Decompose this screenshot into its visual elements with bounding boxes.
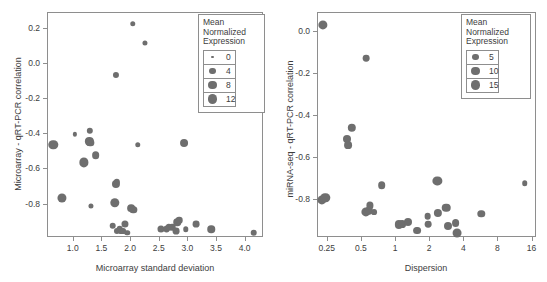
- legend-title-line-3: Expression: [466, 37, 526, 47]
- x-tick-label: 16: [527, 243, 536, 253]
- data-point: [250, 229, 257, 236]
- data-point: [180, 139, 188, 147]
- legend-entry: 8: [204, 79, 235, 93]
- data-point: [424, 213, 431, 220]
- legend-dot: [472, 54, 478, 60]
- x-tick-label: 8: [495, 243, 500, 253]
- data-point: [113, 71, 119, 77]
- x-tick-label: 1.5: [96, 243, 108, 253]
- y-tick: [43, 204, 47, 205]
- y-tick: [313, 157, 317, 158]
- legend-key-right: 51015: [466, 50, 499, 93]
- x-tick-label: 0.25: [318, 243, 335, 253]
- legend-dot: [211, 56, 213, 58]
- x-tick: [532, 237, 533, 241]
- legend-swatch: [204, 93, 221, 106]
- legend-swatch: [204, 79, 221, 92]
- x-tick-label: 3.5: [210, 243, 222, 253]
- data-point: [172, 228, 179, 235]
- legend-swatch: [204, 51, 221, 64]
- y-tick: [313, 199, 317, 200]
- legend-entry: 12: [204, 93, 235, 106]
- x-axis-title-right: Dispersion: [405, 263, 448, 273]
- data-point: [319, 20, 328, 29]
- data-point: [371, 209, 377, 215]
- data-point: [434, 209, 442, 217]
- legend-dot: [471, 67, 479, 75]
- y-axis-title-right: miRNA-seq - qRT-PCR correlation: [285, 61, 295, 198]
- x-tick: [187, 237, 188, 241]
- legend-label: 5: [484, 52, 494, 62]
- x-tick-label: 2.5: [153, 243, 165, 253]
- data-point: [522, 181, 528, 187]
- data-point: [124, 230, 129, 235]
- x-tick-label: 4.0: [239, 243, 251, 253]
- y-tick-label: -0.8: [13, 199, 40, 209]
- legend-key-left: 04812: [203, 50, 236, 107]
- legend-entry: 5: [467, 51, 498, 65]
- y-tick: [43, 168, 47, 169]
- legend-label: 10: [484, 66, 498, 76]
- data-point: [92, 152, 100, 160]
- y-tick: [43, 133, 47, 134]
- x-axis-title-left: Microarray standard deviation: [96, 263, 215, 273]
- data-point: [130, 206, 137, 213]
- data-point: [130, 21, 135, 26]
- legend-swatch: [467, 51, 484, 64]
- x-tick-label: 1: [393, 243, 398, 253]
- x-tick-label: 2: [427, 243, 432, 253]
- y-tick: [313, 115, 317, 116]
- x-tick: [395, 237, 396, 241]
- legend-label: 15: [484, 80, 498, 90]
- scatter-panel-right: 0.250.51248160.0-0.2-0.4-0.6-0.8 Dispers…: [274, 0, 547, 282]
- x-tick: [73, 237, 74, 241]
- legend-dot: [471, 80, 480, 89]
- data-point: [87, 139, 94, 146]
- legend-swatch: [467, 65, 484, 78]
- legend-label: 0: [221, 52, 231, 62]
- data-point: [192, 221, 199, 228]
- data-point: [378, 182, 386, 190]
- x-tick-label: 4: [461, 243, 466, 253]
- y-tick-label: 0.0: [283, 26, 310, 36]
- legend-swatch: [467, 79, 484, 92]
- x-tick-label: 3.0: [181, 243, 193, 253]
- data-point: [88, 204, 93, 209]
- data-point: [363, 55, 370, 62]
- x-tick: [159, 237, 160, 241]
- y-tick-label: 0.2: [13, 23, 40, 33]
- legend-dot: [209, 68, 215, 74]
- data-point: [452, 219, 460, 227]
- x-tick: [245, 237, 246, 241]
- x-tick-label: 1.0: [67, 243, 79, 253]
- legend-entry: 4: [204, 65, 235, 79]
- figure-container: 1.01.52.02.53.03.54.00.20.0-0.2-0.4-0.6-…: [0, 0, 547, 282]
- y-tick: [43, 28, 47, 29]
- legend-dot: [208, 81, 216, 89]
- legend-right: Mean Normalized Expression 51015: [461, 14, 531, 99]
- data-point: [347, 123, 355, 131]
- data-point: [344, 142, 352, 150]
- data-point: [452, 228, 461, 237]
- data-point: [58, 193, 67, 202]
- y-axis-title-left: Microarray - qRT-PCR correlation: [13, 57, 23, 190]
- data-point: [79, 158, 88, 167]
- legend-entry: 0: [204, 51, 235, 65]
- data-point: [321, 193, 330, 202]
- data-point: [87, 128, 93, 134]
- x-tick: [497, 237, 498, 241]
- x-tick: [327, 237, 328, 241]
- data-point: [208, 225, 215, 232]
- data-point: [413, 227, 421, 235]
- y-tick: [313, 31, 317, 32]
- x-tick: [216, 237, 217, 241]
- x-tick: [429, 237, 430, 241]
- data-point: [135, 142, 140, 147]
- x-tick-label: 2.0: [124, 243, 136, 253]
- data-point: [48, 140, 57, 149]
- legend-dot: [208, 94, 217, 103]
- legend-title-line-3: Expression: [203, 37, 260, 47]
- data-point: [183, 226, 188, 231]
- data-point: [142, 40, 147, 45]
- data-point: [176, 217, 183, 224]
